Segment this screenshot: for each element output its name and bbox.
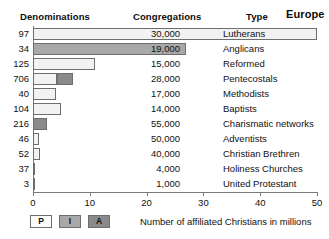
plot-area: 9730,000Lutherans3419,000Anglicans12515,… (0, 26, 323, 192)
table-row: 70628,000Pentecostals (0, 71, 323, 86)
congregations-value: 15,000 (118, 56, 180, 71)
type-label: Adventists (223, 131, 267, 146)
table-row: 4017,000Methodists (0, 86, 323, 101)
type-label: Holiness Churches (223, 161, 303, 176)
denominations-count: 3 (0, 176, 29, 191)
legend-swatch-p[interactable]: P (30, 215, 52, 228)
denominations-count: 40 (0, 86, 29, 101)
x-tick (33, 192, 34, 196)
x-tick-label: 10 (77, 197, 103, 208)
x-tick-label: 40 (247, 197, 273, 208)
table-row: 3419,000Anglicans (0, 41, 323, 56)
denominations-count: 97 (0, 26, 29, 41)
x-tick-label: 30 (190, 197, 216, 208)
bar-segment-p (33, 133, 39, 145)
congregations-value: 19,000 (118, 41, 180, 56)
congregations-value: 28,000 (118, 71, 180, 86)
x-tick-label: 20 (134, 197, 160, 208)
type-label: Lutherans (223, 26, 265, 41)
x-tick (317, 192, 318, 196)
denominations-count: 216 (0, 116, 29, 131)
denominations-count: 34 (0, 41, 29, 56)
denominations-count: 104 (0, 101, 29, 116)
congregations-value: 50,000 (118, 131, 180, 146)
x-axis-line (33, 192, 317, 193)
type-label: Anglicans (223, 41, 264, 56)
legend-swatch-a[interactable]: A (88, 215, 110, 228)
bar-segment-p (33, 103, 61, 115)
table-row: 10414,000Baptists (0, 101, 323, 116)
type-label: Methodists (223, 86, 269, 101)
x-tick-label: 50 (304, 197, 329, 208)
x-tick (260, 192, 261, 196)
table-row: 12515,000Reformed (0, 56, 323, 71)
column-header-denominations: Denominations (20, 11, 90, 22)
denominations-count: 37 (0, 161, 29, 176)
region-title: Europe (286, 8, 325, 20)
denominations-count: 125 (0, 56, 29, 71)
table-row: 31,000United Protestant (0, 176, 323, 191)
bar-segment-p (33, 58, 95, 70)
congregations-value: 30,000 (118, 26, 180, 41)
congregations-value: 17,000 (118, 86, 180, 101)
denominations-count: 52 (0, 146, 29, 161)
table-row: 5240,000Christian Brethren (0, 146, 323, 161)
type-label: United Protestant (223, 176, 296, 191)
denominations-count: 706 (0, 71, 29, 86)
congregations-value: 4,000 (118, 161, 180, 176)
bar-segment-p (33, 178, 35, 190)
type-label: Pentecostals (223, 71, 277, 86)
legend-swatch-i[interactable]: I (59, 215, 81, 228)
type-label: Baptists (223, 101, 257, 116)
congregations-value: 1,000 (118, 176, 180, 191)
column-header-type: Type (246, 11, 268, 22)
type-label: Charismatic networks (223, 116, 314, 131)
table-row: 4650,000Adventists (0, 131, 323, 146)
x-tick (203, 192, 204, 196)
congregations-value: 40,000 (118, 146, 180, 161)
x-tick (147, 192, 148, 196)
x-tick (90, 192, 91, 196)
column-header-congregations: Congregations (133, 11, 201, 22)
congregations-value: 14,000 (118, 101, 180, 116)
type-label: Christian Brethren (223, 146, 300, 161)
table-row: 21655,000Charismatic networks (0, 116, 323, 131)
bar-segment-a (57, 73, 72, 85)
bar-segment-p (33, 148, 40, 160)
denominations-count: 46 (0, 131, 29, 146)
bar-segment-a (33, 118, 47, 130)
x-tick-label: 0 (20, 197, 46, 208)
bar-segment-p (33, 163, 35, 175)
x-axis-caption: Number of affiliated Christians in milli… (140, 216, 311, 227)
bar-segment-p (33, 88, 56, 100)
table-row: 374,000Holiness Churches (0, 161, 323, 176)
bar-segment-p (33, 73, 57, 85)
table-row: 9730,000Lutherans (0, 26, 323, 41)
congregations-value: 55,000 (118, 116, 180, 131)
type-label: Reformed (223, 56, 265, 71)
